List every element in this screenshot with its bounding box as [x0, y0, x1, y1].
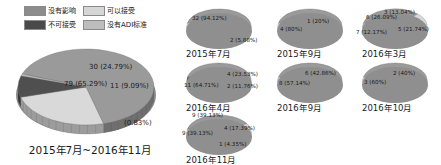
- main-pie-title: 2015年7月~2016年11月: [6, 142, 174, 157]
- mini-slice-label-3: 3 (13.04%): [384, 9, 415, 15]
- legend-row: 没有影响 可以接受: [24, 6, 174, 16]
- mini-slice-label-1: 5 (21.74%): [398, 26, 429, 32]
- mini-chart-2016-09: 8 (57.14%) 6 (42.86%) 2016年9月: [277, 62, 343, 100]
- figure-root: 没有影响 可以接受 不可接受 没有ADI标准 79 (65.29%) 30 (2…: [0, 0, 441, 165]
- mini-slice-label-0: 9 (39.13%): [192, 112, 223, 118]
- mini-slice-label-0: 11 (64.71%): [184, 82, 219, 88]
- legend-row: 不可接受 没有ADI标准: [24, 20, 174, 30]
- mini-chart-2016-03: 6 (26.09%) 5 (21.74%) 7 (12.17%) 3 (13.0…: [362, 8, 428, 46]
- mini-slice-label-0: 8 (57.14%): [279, 80, 310, 86]
- legend-item-0: 没有影响: [24, 6, 76, 16]
- mini-pie-title: 2016年10月: [362, 101, 412, 113]
- mini-pie-title: 2016年3月: [362, 47, 407, 59]
- legend-item-1: 可以接受: [83, 6, 135, 16]
- legend-swatch-icon: [83, 20, 105, 30]
- legend-item-2: 不可接受: [24, 20, 76, 30]
- main-pie-chart: 79 (65.29%) 30 (24.79%) 11 (9.09%) (0.83…: [6, 42, 174, 165]
- mini-slice-label-2: 4 (17.39%): [224, 125, 255, 131]
- mini-slice-label-0: 32 (94.12%): [192, 15, 227, 21]
- mini-slice-label-1: 2 (5.88%): [230, 37, 257, 43]
- mini-chart-2016-11: 9 (39.13%) 9 (39.13%) 4 (17.39%) 1 (4.35…: [186, 114, 252, 152]
- mini-slice-label-0: 3 (60%): [364, 79, 386, 85]
- mini-pie-title: 2016年9月: [277, 101, 322, 113]
- mini-slice-label-1: 4 (23.53%): [227, 71, 258, 77]
- main-slice-label-0: 79 (65.29%): [64, 80, 107, 88]
- mini-pie-title: 2016年11月: [186, 153, 236, 165]
- legend-label: 没有影响: [48, 7, 76, 15]
- mini-slice-label-3: 1 (4.35%): [219, 141, 246, 147]
- mini-slice-label-2: 7 (12.17%): [356, 29, 387, 35]
- mini-pie-graphic: [186, 62, 252, 100]
- main-slice-label-2: 11 (9.09%): [110, 82, 149, 90]
- mini-chart-2015-07: 32 (94.12%) 2 (5.88%) 2015年7月: [186, 8, 252, 46]
- legend-label: 可以接受: [107, 7, 135, 15]
- legend-swatch-icon: [24, 20, 46, 30]
- legend: 没有影响 可以接受 不可接受 没有ADI标准: [24, 6, 174, 34]
- main-slice-label-3: (0.83%): [124, 119, 152, 127]
- mini-slice-label-1: 2 (40%): [393, 70, 415, 76]
- mini-pie-title: 2015年7月: [186, 47, 231, 59]
- mini-slice-label-1: 9 (39.13%): [182, 130, 213, 136]
- mini-slice-label-2: 2 (11.76%): [227, 83, 258, 89]
- mini-slice-label-1: 1 (20%): [307, 18, 329, 24]
- legend-swatch-icon: [83, 6, 105, 16]
- legend-label: 不可接受: [48, 21, 76, 29]
- legend-label: 没有ADI标准: [107, 21, 147, 29]
- main-slice-label-1: 30 (24.79%): [89, 63, 132, 71]
- mini-chart-2015-09: 4 (80%) 1 (20%) 2015年9月: [277, 8, 343, 46]
- legend-item-3: 没有ADI标准: [83, 20, 147, 30]
- mini-slice-label-0: 4 (80%): [280, 26, 302, 32]
- mini-slice-label-1: 6 (42.86%): [305, 70, 336, 76]
- mini-pie-title: 2015年9月: [277, 47, 322, 59]
- mini-chart-2016-10: 3 (60%) 2 (40%) 2016年10月: [362, 62, 428, 100]
- mini-chart-2016-04: 11 (64.71%) 4 (23.53%) 2 (11.76%) 2016年4…: [186, 62, 252, 100]
- legend-swatch-icon: [24, 6, 46, 16]
